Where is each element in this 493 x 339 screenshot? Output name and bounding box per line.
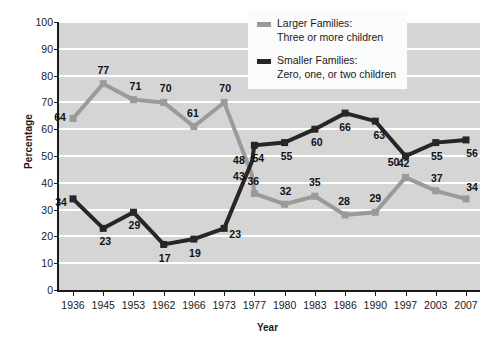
x-tick-label: 1997 (394, 299, 417, 311)
data-label-larger: 36 (248, 175, 260, 187)
series-marker-smaller (100, 225, 107, 232)
x-tick-mark (194, 290, 195, 296)
series-marker-larger (342, 211, 349, 218)
legend-label: Smaller Families:Zero, one, or two child… (277, 54, 396, 82)
data-label-larger: 35 (309, 176, 321, 188)
series-marker-smaller (221, 225, 228, 232)
series-marker-larger (372, 209, 379, 216)
y-tick-label: 70 (41, 96, 53, 108)
data-label-smaller: 34 (55, 196, 67, 208)
y-tick-mark (54, 290, 59, 291)
data-label-smaller: 55 (431, 150, 443, 162)
y-tick-label: 0 (47, 284, 53, 296)
x-tick-label: 1986 (333, 299, 356, 311)
x-tick-label: 1973 (212, 299, 235, 311)
series-marker-smaller (342, 110, 349, 117)
legend-label: Larger Families:Three or more children (277, 17, 383, 45)
legend-swatch-icon (257, 22, 271, 27)
x-tick-label: 1990 (364, 299, 387, 311)
series-marker-smaller (372, 118, 379, 125)
x-tick-mark (164, 290, 165, 296)
data-label-larger: 61 (187, 107, 199, 119)
legend-label-line2: Zero, one, or two children (277, 68, 396, 82)
data-label-larger: 29 (369, 192, 381, 204)
x-tick-mark (285, 290, 286, 296)
data-label-larger: 32 (280, 185, 292, 197)
series-marker-larger (70, 115, 77, 122)
data-label-larger: 28 (338, 195, 350, 207)
y-tick-label: 10 (41, 257, 53, 269)
data-label-larger: 70 (160, 82, 172, 94)
x-tick-mark (224, 290, 225, 296)
y-tick-label: 100 (35, 16, 53, 28)
x-tick-mark (436, 290, 437, 296)
series-marker-larger (221, 99, 228, 106)
data-label-larger: 77 (97, 64, 109, 76)
legend-entry: Larger Families:Three or more children (257, 17, 396, 45)
data-label-larger: 71 (130, 80, 142, 92)
y-tick-label: 50 (41, 150, 53, 162)
x-tick-label: 1953 (122, 299, 145, 311)
series-marker-larger (463, 195, 470, 202)
series-marker-smaller (251, 142, 258, 149)
series-marker-smaller (311, 126, 318, 133)
data-label-smaller: 56 (466, 147, 478, 159)
x-tick-label: 1936 (61, 299, 84, 311)
legend-label-line1: Larger Families: (277, 17, 383, 31)
y-tick-label: 40 (41, 177, 53, 189)
legend: Larger Families:Three or more childrenSm… (248, 10, 407, 89)
x-tick-label: 2007 (454, 299, 477, 311)
data-label-smaller: 66 (339, 121, 351, 133)
series-marker-smaller (190, 236, 197, 243)
x-tick-mark (406, 290, 407, 296)
series-marker-larger (130, 96, 137, 103)
x-tick-mark (103, 290, 104, 296)
series-marker-larger (251, 190, 258, 197)
data-label-smaller: 23 (99, 235, 111, 247)
data-label-smaller: 55 (281, 150, 293, 162)
data-label-smaller: 19 (189, 247, 201, 259)
data-label-larger: 70 (219, 82, 231, 94)
data-label-larger: 43 (233, 170, 245, 182)
y-tick-label: 80 (41, 70, 53, 82)
data-label-smaller: 29 (129, 219, 141, 231)
series-marker-larger (311, 193, 318, 200)
y-tick-label: 30 (41, 204, 53, 216)
legend-label-line1: Smaller Families: (277, 54, 396, 68)
legend-label-line2: Three or more children (277, 31, 383, 45)
series-marker-smaller (130, 209, 137, 216)
x-tick-label: 1962 (152, 299, 175, 311)
legend-swatch-icon (257, 59, 271, 64)
legend-entry: Smaller Families:Zero, one, or two child… (257, 54, 396, 82)
data-label-smaller: 54 (253, 152, 265, 164)
data-label-smaller: 63 (373, 129, 385, 141)
y-tick-label: 60 (41, 123, 53, 135)
x-tick-mark (254, 290, 255, 296)
x-tick-mark (315, 290, 316, 296)
data-label-smaller: 48 (233, 154, 245, 166)
data-label-larger: 64 (54, 111, 66, 123)
series-marker-larger (432, 187, 439, 194)
data-label-larger: 34 (466, 181, 478, 193)
series-marker-smaller (160, 241, 167, 248)
data-label-larger: 37 (431, 172, 443, 184)
x-tick-label: 1966 (182, 299, 205, 311)
series-marker-larger (160, 99, 167, 106)
series-line-larger (73, 84, 466, 215)
series-marker-larger (100, 80, 107, 87)
y-axis-title: Percentage (23, 62, 34, 222)
x-tick-mark (133, 290, 134, 296)
data-label-smaller: 23 (229, 228, 241, 240)
line-chart: Percentage Year 0102030405060708090100 1… (0, 0, 493, 339)
x-tick-label: 2003 (424, 299, 447, 311)
series-marker-larger (190, 123, 197, 130)
data-label-smaller: 50 (388, 156, 400, 168)
x-tick-label: 1983 (303, 299, 326, 311)
series-marker-smaller (463, 136, 470, 143)
y-tick-label: 20 (41, 230, 53, 242)
x-tick-mark (345, 290, 346, 296)
x-tick-label: 1980 (273, 299, 296, 311)
series-marker-smaller (432, 139, 439, 146)
x-tick-label: 1945 (92, 299, 115, 311)
x-tick-label: 1977 (243, 299, 266, 311)
